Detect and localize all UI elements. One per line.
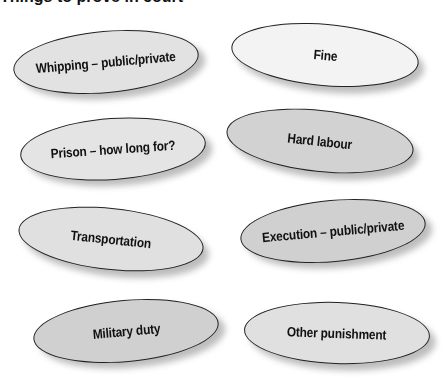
page-title: Things to prove in court xyxy=(0,0,183,6)
punishment-oval: Prison – how long for? xyxy=(18,112,208,187)
oval-label: Prison – how long for? xyxy=(50,137,176,161)
punishment-oval: Execution – public/private xyxy=(238,192,429,270)
oval-label: Fine xyxy=(313,46,338,63)
punishment-oval: Other punishment xyxy=(243,299,431,367)
oval-label: Other punishment xyxy=(287,324,387,342)
punishment-oval: Hard labour xyxy=(223,100,416,181)
oval-label: Military duty xyxy=(92,321,161,342)
punishment-oval: Fine xyxy=(229,16,422,94)
oval-label: Transportation xyxy=(70,227,152,250)
oval-label: Whipping – public/private xyxy=(36,48,177,75)
punishment-oval: Transportation xyxy=(15,198,206,279)
oval-label: Hard labour xyxy=(287,130,353,152)
oval-label: Execution – public/private xyxy=(261,217,404,244)
punishment-oval: Military duty xyxy=(31,292,222,370)
punishment-oval: Whipping – public/private xyxy=(11,23,202,101)
